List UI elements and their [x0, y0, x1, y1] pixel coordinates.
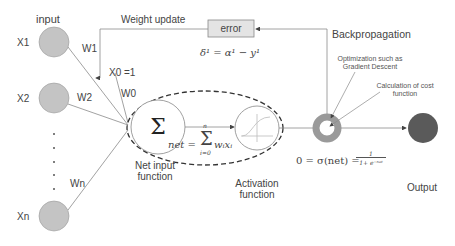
w2-label: W2	[77, 92, 92, 103]
input-node-x2	[39, 83, 69, 113]
output-label: Output	[407, 182, 437, 193]
activation-function-label: Activationfunction	[222, 178, 292, 200]
x0-label: X0 =1	[109, 67, 135, 78]
input-label: input	[36, 14, 60, 25]
cost-ring-node	[316, 117, 338, 139]
sigmoid-denominator: 1+ e⁻ⁿᵉᵗ	[356, 159, 386, 166]
x1-label: X1	[17, 37, 29, 48]
w0-label: W0	[121, 88, 136, 99]
optimization-label: Optimization such asGradient Descent	[330, 55, 410, 71]
error-label: error	[208, 23, 254, 34]
net-sum-upper: n	[203, 122, 207, 129]
w1-label: W1	[82, 43, 97, 54]
net-rhs: wᵢxᵢ	[214, 139, 232, 150]
ellipsis-dots	[53, 133, 55, 190]
xn-label: Xn	[17, 211, 29, 222]
cost-calculation-label: Calculation of costfunction	[365, 82, 445, 98]
sigmoid-formula-lhs: 0 = σ(net) =	[296, 155, 360, 166]
wn-label: Wn	[70, 178, 85, 189]
backpropagation-label: Backpropagation	[332, 29, 411, 40]
delta-formula: δ¹ = α¹ − y¹	[200, 47, 260, 58]
net-sum-symbol: Σ	[200, 130, 213, 148]
net-sum-lower: i=0	[200, 149, 211, 156]
net-input-function-label: Net inputfunction	[120, 160, 190, 182]
input-node-xn	[39, 201, 69, 231]
input-node-x1	[39, 27, 69, 57]
x2-label: X2	[17, 93, 29, 104]
net-lhs: net =	[168, 139, 196, 150]
weight-update-label: Weight update	[121, 14, 185, 25]
output-node	[408, 113, 438, 143]
sigmoid-numerator: 1	[356, 150, 386, 158]
sigma-sum-symbol: Σ	[144, 116, 172, 138]
backprop-line	[256, 29, 327, 114]
